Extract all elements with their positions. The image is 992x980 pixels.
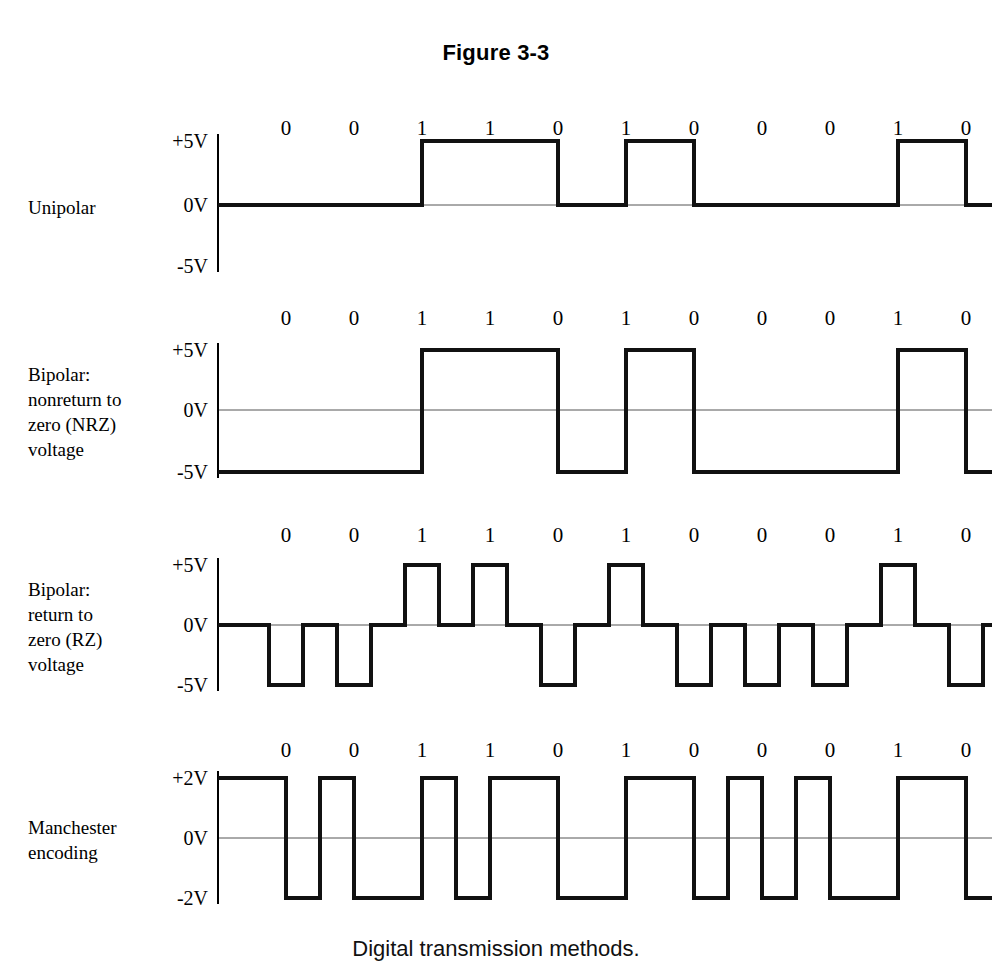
bit-label: 0 bbox=[349, 738, 360, 762]
bit-label: 0 bbox=[689, 738, 700, 762]
bit-label: 1 bbox=[893, 738, 904, 762]
bit-label: 0 bbox=[689, 306, 700, 330]
bit-label: 0 bbox=[757, 738, 768, 762]
bit-label: 0 bbox=[825, 523, 836, 547]
bit-label: 1 bbox=[621, 523, 632, 547]
bit-label: 1 bbox=[621, 306, 632, 330]
signal-trace-unipolar bbox=[218, 141, 992, 205]
y-axis-tick: +5V bbox=[172, 554, 208, 576]
bit-label: 0 bbox=[757, 523, 768, 547]
bit-label: 1 bbox=[485, 738, 496, 762]
bit-label: 1 bbox=[417, 116, 428, 140]
y-axis-tick: +2V bbox=[172, 767, 208, 789]
bit-label: 0 bbox=[553, 523, 564, 547]
bit-label: 1 bbox=[621, 738, 632, 762]
bit-label: 1 bbox=[621, 116, 632, 140]
bit-label: 1 bbox=[417, 306, 428, 330]
waveform-nrz: 00110100010+5V0V-5V bbox=[0, 310, 992, 520]
y-axis-tick: -5V bbox=[177, 674, 209, 696]
bit-label: 0 bbox=[689, 116, 700, 140]
bit-label: 1 bbox=[417, 738, 428, 762]
bit-label: 0 bbox=[349, 523, 360, 547]
y-axis-tick: -5V bbox=[177, 461, 209, 483]
bit-label: 1 bbox=[485, 116, 496, 140]
y-axis-tick: -2V bbox=[177, 887, 209, 909]
bit-label: 1 bbox=[417, 523, 428, 547]
y-axis-tick: -5V bbox=[177, 255, 209, 277]
bit-label: 0 bbox=[281, 523, 292, 547]
bit-label: 0 bbox=[961, 116, 972, 140]
panel-bipolar-nrz: Bipolar:nonreturn tozero (NRZ)voltage001… bbox=[0, 310, 992, 540]
y-axis-tick: +5V bbox=[172, 339, 208, 361]
bit-label: 0 bbox=[961, 306, 972, 330]
figure-page: Figure 3-3 Unipolar00110100010+5V0V-5V B… bbox=[0, 0, 992, 980]
figure-title: Figure 3-3 bbox=[0, 40, 992, 66]
bit-label: 0 bbox=[757, 306, 768, 330]
bit-label: 0 bbox=[281, 306, 292, 330]
y-axis-tick: 0V bbox=[184, 827, 209, 849]
figure-caption: Digital transmission methods. bbox=[0, 936, 992, 962]
bit-label: 0 bbox=[825, 116, 836, 140]
bit-label: 1 bbox=[485, 523, 496, 547]
bit-label: 1 bbox=[893, 306, 904, 330]
y-axis-tick: 0V bbox=[184, 194, 209, 216]
bit-label: 1 bbox=[893, 523, 904, 547]
bit-label: 0 bbox=[349, 306, 360, 330]
bit-label: 0 bbox=[961, 523, 972, 547]
bit-label: 0 bbox=[553, 738, 564, 762]
bit-label: 0 bbox=[553, 116, 564, 140]
bit-label: 0 bbox=[689, 523, 700, 547]
waveform-rz: 00110100010+5V0V-5V bbox=[0, 527, 992, 722]
bit-label: 0 bbox=[281, 116, 292, 140]
y-axis-tick: 0V bbox=[184, 614, 209, 636]
waveform-manchester: 00110100010+2V0V-2V bbox=[0, 742, 992, 937]
panel-bipolar-rz: Bipolar:return tozero (RZ)voltage0011010… bbox=[0, 527, 992, 742]
signal-trace-rz bbox=[218, 565, 992, 685]
y-axis-tick: 0V bbox=[184, 399, 209, 421]
bit-label: 0 bbox=[281, 738, 292, 762]
bit-label: 0 bbox=[825, 306, 836, 330]
y-axis-tick: +5V bbox=[172, 130, 208, 152]
signal-trace-nrz bbox=[218, 350, 992, 472]
waveform-unipolar: 00110100010+5V0V-5V bbox=[0, 120, 992, 305]
bit-label: 0 bbox=[553, 306, 564, 330]
bit-label: 0 bbox=[961, 738, 972, 762]
bit-label: 0 bbox=[825, 738, 836, 762]
panel-manchester: Manchesterencoding00110100010+2V0V-2V bbox=[0, 742, 992, 957]
bit-label: 0 bbox=[349, 116, 360, 140]
bit-label: 0 bbox=[757, 116, 768, 140]
bit-label: 1 bbox=[893, 116, 904, 140]
bit-label: 1 bbox=[485, 306, 496, 330]
panel-unipolar: Unipolar00110100010+5V0V-5V bbox=[0, 120, 992, 325]
